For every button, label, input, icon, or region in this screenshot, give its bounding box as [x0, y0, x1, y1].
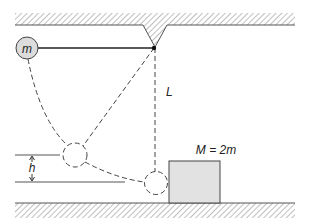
bottom-position: [145, 172, 168, 195]
swing-arc-return: [85, 162, 144, 182]
pendulum-mass: m: [16, 37, 38, 59]
string-intermediate: [83, 48, 154, 146]
length-label: L: [166, 85, 173, 99]
block: [169, 161, 220, 203]
pendulum-mass-label: m: [22, 42, 32, 56]
floor: [15, 203, 295, 218]
pivot-point: [152, 46, 156, 50]
ceiling: [15, 13, 295, 47]
height-label: h: [29, 161, 36, 175]
block-mass-label: M = 2m: [196, 143, 236, 157]
intermediate-position: [63, 143, 87, 167]
swing-arc: [28, 59, 68, 146]
pendulum-diagram: m M = 2m L h: [0, 0, 309, 224]
